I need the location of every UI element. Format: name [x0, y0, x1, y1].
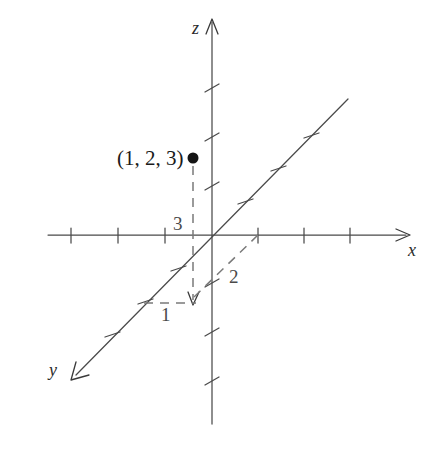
- figure-container: x z: [0, 0, 436, 450]
- coordinate-axes-figure: x z: [0, 0, 436, 450]
- measure-label-z: 3: [173, 213, 183, 234]
- measure-label-y: 2: [229, 266, 239, 287]
- y-axis-tick: [304, 133, 319, 138]
- y-axis-tick: [105, 332, 120, 337]
- y-axis-label: y: [47, 360, 57, 380]
- x-axis-group: x: [48, 228, 416, 260]
- y-axis-group: y: [47, 99, 348, 380]
- z-axis-group: z: [191, 18, 219, 424]
- x-axis-label: x: [407, 240, 416, 260]
- y-offset-guide: [194, 235, 258, 297]
- z-axis-label: z: [191, 18, 199, 38]
- plotted-point-marker: [188, 153, 199, 164]
- measure-label-x: 1: [161, 304, 171, 325]
- point-coordinate-label: (1, 2, 3): [117, 146, 184, 170]
